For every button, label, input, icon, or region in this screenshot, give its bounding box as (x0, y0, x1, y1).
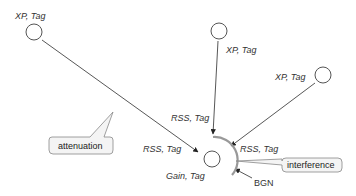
interference-text: interference (287, 160, 335, 170)
transmitter-center-node[interactable] (211, 23, 227, 39)
edge-right-to-receiver (231, 83, 315, 146)
transmitter-center-label: XP, Tag (225, 45, 257, 55)
edge-left-to-receiver (42, 40, 198, 152)
transmitter-right-label: XP, Tag (274, 72, 306, 82)
transmitter-left-node[interactable] (26, 24, 42, 40)
receiver-node[interactable] (204, 151, 220, 167)
transmitter-right-node[interactable] (315, 67, 331, 83)
signal-diagram: XP, Tag XP, Tag XP, Tag Gain, Tag RSS, T… (0, 0, 356, 196)
rss-right-label: RSS, Tag (240, 144, 278, 154)
interference-callout: interference (236, 158, 342, 172)
rss-left-label: RSS, Tag (143, 144, 181, 154)
receiver-label: Gain, Tag (166, 171, 205, 181)
rss-top-label: RSS, Tag (171, 113, 209, 123)
attenuation-text: attenuation (58, 141, 103, 151)
edge-bgn-to-receiver (235, 169, 252, 178)
attenuation-callout: attenuation (49, 112, 113, 154)
bgn-label: BGN (254, 178, 274, 188)
edge-center-to-receiver (213, 41, 218, 134)
transmitter-left-label: XP, Tag (14, 11, 46, 21)
